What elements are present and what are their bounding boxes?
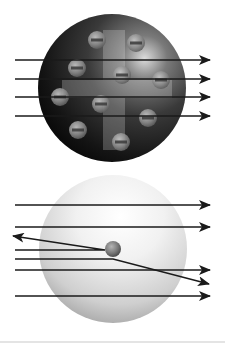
minus-icon [116,74,128,77]
atom-models-diagram [0,0,225,346]
electron [69,121,87,139]
electron [113,66,131,84]
minus-icon [91,39,103,42]
minus-icon [71,67,83,70]
minus-icon [130,42,142,45]
minus-icon [142,117,154,120]
bottom-divider [0,341,225,343]
minus-icon [115,141,127,144]
electron [152,71,170,89]
nucleus [105,241,121,257]
plum-pudding-model [15,14,210,162]
electron [112,133,130,151]
electron [88,31,106,49]
electron [139,109,157,127]
nuclear-model [13,175,210,323]
minus-icon [95,103,107,106]
electron [68,59,86,77]
electron [127,34,145,52]
minus-icon [72,129,84,132]
